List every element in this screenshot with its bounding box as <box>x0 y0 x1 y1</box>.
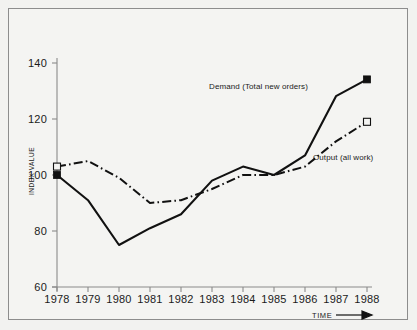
x-tick-label-1986: 1986 <box>292 293 317 305</box>
x-ticks <box>57 287 367 292</box>
x-tick-label-1988: 1988 <box>354 293 379 305</box>
marker-output-end <box>364 118 371 125</box>
x-axis-title: TIME <box>312 311 332 320</box>
y-tick-label-120: 120 <box>28 113 47 125</box>
x-tick-label-1981: 1981 <box>137 293 162 305</box>
x-tick-label-1980: 1980 <box>106 293 131 305</box>
y-tick-label-140: 140 <box>28 57 47 69</box>
x-tick-label-1978: 1978 <box>44 293 69 305</box>
y-tick-label-60: 60 <box>34 281 47 293</box>
x-tick-label-1985: 1985 <box>261 293 286 305</box>
x-tick-label-1979: 1979 <box>75 293 100 305</box>
y-tick-label-80: 80 <box>34 225 47 237</box>
series-annotation-output: Output (all work) <box>313 153 374 162</box>
chart-page: 140 120 100 80 60 1978 1979 1980 1981 19… <box>0 0 417 330</box>
x-tick-label-1984: 1984 <box>230 293 255 305</box>
line-chart: 140 120 100 80 60 1978 1979 1980 1981 19… <box>0 0 417 330</box>
series-annotation-demand: Demand (Total new orders) <box>209 82 308 91</box>
marker-output-start <box>54 163 61 170</box>
x-tick-label-1983: 1983 <box>199 293 224 305</box>
x-tick-labels: 1978 1979 1980 1981 1982 1983 1984 1985 … <box>44 293 379 305</box>
marker-demand-start <box>54 172 61 179</box>
y-axis-title: INDEX VALUE <box>28 147 35 195</box>
right-arrow-icon <box>336 311 372 319</box>
marker-demand-end <box>364 76 371 83</box>
series-line-output <box>57 122 367 203</box>
x-tick-label-1982: 1982 <box>168 293 193 305</box>
series-line-demand <box>57 79 367 245</box>
x-tick-label-1987: 1987 <box>323 293 348 305</box>
